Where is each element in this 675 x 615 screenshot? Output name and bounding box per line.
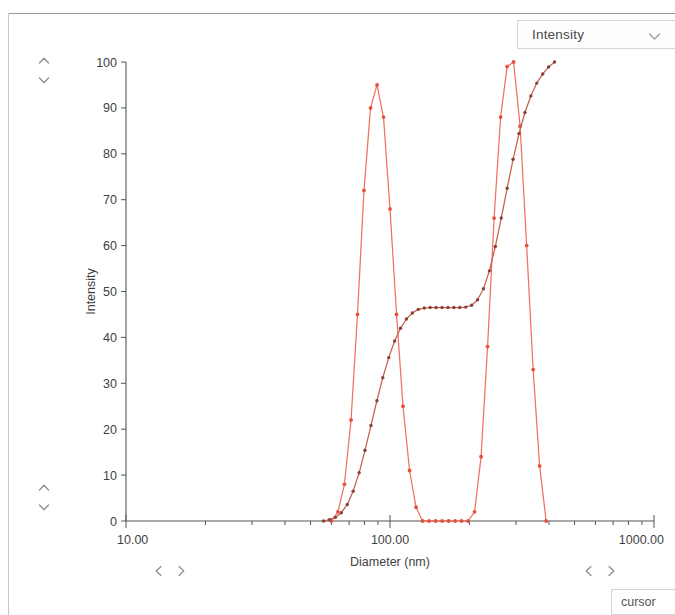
series-data-point (460, 519, 464, 523)
series-data-point (517, 132, 520, 135)
x-axis-tick-label: 1000.00 (619, 533, 664, 547)
series-data-point (395, 313, 399, 317)
series-data-point (547, 65, 550, 68)
series-data-point (464, 305, 467, 308)
y-axis-tick-label: 80 (103, 147, 117, 161)
series-data-point (322, 519, 325, 522)
x-axis-tick-label: 100.00 (371, 533, 409, 547)
series-data-point (356, 313, 360, 317)
series-data-point (387, 356, 390, 359)
series-data-point (452, 306, 455, 309)
series-data-point (500, 216, 503, 219)
series-data-point (334, 516, 337, 519)
series-data-point (446, 306, 449, 309)
y-axis-tick-label: 70 (103, 193, 117, 207)
series-data-point (494, 245, 497, 248)
series-data-point (362, 189, 366, 193)
y-axis-tick-label: 100 (96, 56, 117, 70)
y-axis-tick-label: 10 (103, 469, 117, 483)
series-data-point (482, 287, 485, 290)
series-data-point (340, 511, 343, 514)
series-data-point (544, 519, 548, 523)
series-data-point (529, 94, 532, 97)
particle-size-chart-window: Intensity (0, 0, 675, 615)
series-data-point (408, 469, 412, 473)
series-data-point (427, 519, 431, 523)
series-data-point (458, 306, 461, 309)
series-data-point (440, 519, 444, 523)
series-data-point (479, 455, 483, 459)
series-data-point (375, 399, 378, 402)
y-axis-tick-label: 20 (103, 423, 117, 437)
x-axis-tick-label: 10.00 (117, 533, 148, 547)
series-data-point (351, 489, 354, 492)
series-data-point (511, 158, 514, 161)
series-data-point (488, 269, 491, 272)
series-data-point (399, 327, 402, 330)
series-data-point (499, 115, 503, 119)
series-data-point (538, 464, 542, 468)
series-data-point (476, 298, 479, 301)
series-data-point (535, 81, 538, 84)
series-data-point (423, 306, 426, 309)
series-data-point (523, 111, 526, 114)
series-data-point (553, 60, 556, 63)
series-data-point (541, 72, 544, 75)
series-data-point (346, 503, 349, 506)
series-data-point (401, 404, 405, 408)
series-data-point (414, 505, 418, 509)
series-data-point (453, 519, 457, 523)
series-data-point (343, 482, 347, 486)
x-axis-title: Diameter (nm) (350, 555, 430, 569)
series-data-point (466, 519, 470, 523)
series-data-point (492, 216, 496, 220)
series-line (331, 62, 546, 521)
series-data-point (349, 418, 353, 422)
y-axis-tick-label: 90 (103, 101, 117, 115)
y-axis-tick-label: 30 (103, 377, 117, 391)
chart-series (322, 60, 556, 522)
series-data-point (505, 65, 509, 69)
series-data-point (505, 187, 508, 190)
series-data-point (336, 510, 340, 514)
series-data-point (393, 339, 396, 342)
y-axis-title: Intensity (84, 267, 98, 314)
series-data-point (375, 83, 379, 87)
series-data-point (447, 519, 451, 523)
y-axis-tick-label: 40 (103, 331, 117, 345)
series-data-point (434, 306, 437, 309)
series-data-point (382, 115, 386, 119)
series-data-point (525, 244, 529, 248)
series-data-point (363, 449, 366, 452)
series-data-point (531, 368, 535, 372)
series-data-point (486, 345, 490, 349)
series-data-point (369, 424, 372, 427)
chart-svg: 0102030405060708090100Intensity10.00100.… (0, 0, 675, 615)
series-data-point (369, 106, 373, 110)
chart-plot-area[interactable]: 0102030405060708090100Intensity10.00100.… (0, 0, 675, 615)
series-data-point (328, 518, 331, 521)
series-data-point (473, 510, 477, 514)
series-data-point (512, 60, 516, 64)
series-data-point (411, 311, 414, 314)
series-data-point (421, 519, 425, 523)
chart-series (330, 60, 548, 523)
series-data-point (470, 304, 473, 307)
series-data-point (381, 376, 384, 379)
y-axis-tick-label: 60 (103, 239, 117, 253)
series-data-point (388, 207, 392, 211)
series-data-point (429, 306, 432, 309)
series-data-point (440, 306, 443, 309)
series-data-point (357, 471, 360, 474)
y-axis-tick-label: 0 (110, 515, 117, 529)
series-data-point (434, 519, 438, 523)
series-data-point (417, 308, 420, 311)
y-axis-tick-label: 50 (103, 285, 117, 299)
series-data-point (405, 317, 408, 320)
